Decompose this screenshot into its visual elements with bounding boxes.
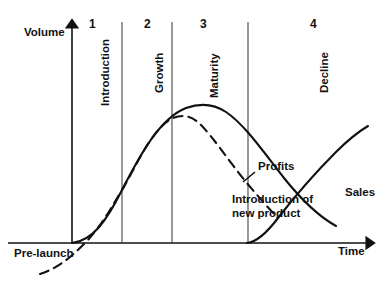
- stage-number-1: 1: [89, 18, 96, 31]
- sales-curve-label: Sales: [345, 186, 375, 199]
- profits-curve-label: Profits: [258, 160, 294, 173]
- stage-number-2: 2: [144, 18, 151, 31]
- stage-label-decline: Decline: [318, 52, 331, 93]
- stage-label-introduction: Introduction: [99, 39, 112, 106]
- stage-label-maturity: Maturity: [208, 53, 221, 98]
- stage-number-3: 3: [200, 18, 207, 31]
- y-axis-label: Volume: [24, 26, 65, 39]
- profits-leader-line: [243, 172, 255, 182]
- sales-curve: [72, 105, 336, 243]
- diagram-canvas: [0, 0, 391, 288]
- x-axis-label: Time: [338, 245, 365, 258]
- new-product-label-line-1: Introduction of: [232, 192, 313, 206]
- new-product-label-line-2: new product: [232, 206, 313, 220]
- new-product-curve: [247, 126, 368, 243]
- pre-launch-label: Pre-launch: [14, 247, 73, 260]
- new-product-curve-label: Introduction of new product: [232, 192, 313, 221]
- stage-label-growth: Growth: [153, 53, 166, 93]
- product-life-cycle-diagram: Volume Time Pre-launch 1 2 3 4 Introduct…: [0, 0, 391, 288]
- stage-number-4: 4: [310, 18, 317, 31]
